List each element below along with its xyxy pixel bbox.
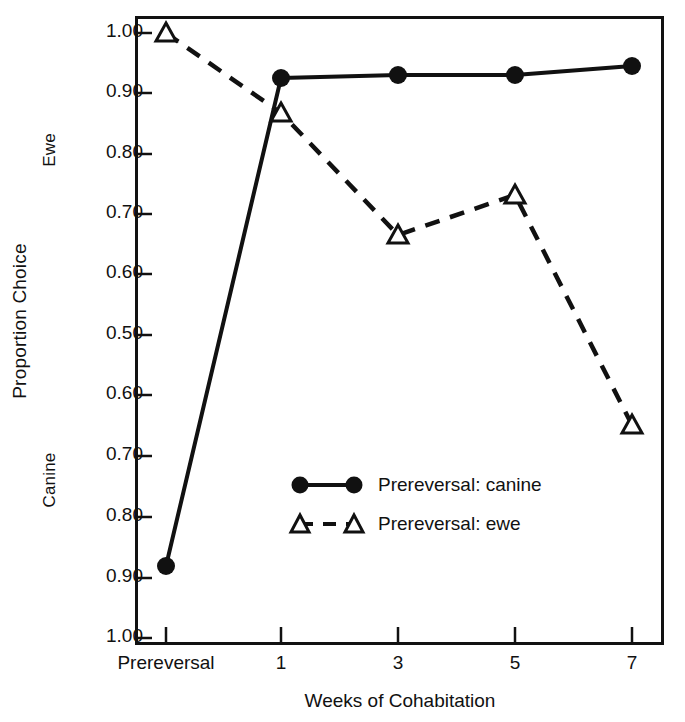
series-canine-marker-week3 — [389, 66, 407, 84]
y-tick-label-2: 0.90 — [51, 80, 143, 102]
chart-plot-area — [0, 0, 685, 722]
y-tick-label-1: 1.00 — [51, 20, 143, 42]
y-tick-label-11: 1.00 — [51, 625, 143, 647]
series-prereversal-canine — [157, 57, 641, 575]
x-tick-label-1: 1 — [241, 652, 321, 674]
y-tick-label-9: 0.80 — [51, 504, 143, 526]
y-tick-label-4: 0.70 — [51, 201, 143, 223]
x-tick-label-prereversal: Prereversal — [86, 652, 246, 674]
y-axis-title-lower: Canine — [40, 412, 60, 548]
x-tick-label-3: 3 — [358, 652, 438, 674]
y-axis-title-upper: Ewe — [40, 90, 60, 210]
series-canine-marker-prereversal — [157, 557, 175, 575]
y-tick-label-7: 0.60 — [51, 382, 143, 404]
legend-entry-ewe-label: Prereversal: ewe — [378, 513, 521, 535]
x-tick-label-5: 5 — [475, 652, 555, 674]
series-canine-marker-week1 — [272, 69, 290, 87]
series-ewe-marker-week7 — [622, 415, 642, 433]
y-tick-label-8: 0.70 — [51, 443, 143, 465]
legend-canine-marker-right — [346, 477, 363, 494]
series-canine-marker-week5 — [506, 66, 524, 84]
series-canine-marker-week7 — [623, 57, 641, 75]
legend-entry-canine-label: Prereversal: canine — [378, 474, 542, 496]
series-ewe-marker-prereversal — [156, 23, 176, 41]
y-tick-label-3: 0.80 — [51, 141, 143, 163]
series-ewe-marker-week5 — [505, 185, 525, 203]
legend-markers — [291, 477, 363, 533]
y-tick-label-6: 0.50 — [51, 322, 143, 344]
legend-canine-marker-left — [292, 477, 309, 494]
y-axis-title-outer: Proportion Choice — [9, 231, 31, 411]
y-tick-label-5: 0.60 — [51, 261, 143, 283]
y-tick-label-10: 0.90 — [51, 565, 143, 587]
x-axis-title: Weeks of Cohabitation — [137, 690, 663, 712]
x-axis-ticks — [166, 627, 632, 643]
chart-figure: 1.00 0.90 0.80 0.70 0.60 0.50 0.60 0.70 … — [0, 0, 685, 722]
series-prereversal-ewe — [156, 23, 642, 433]
x-tick-label-7: 7 — [592, 652, 672, 674]
